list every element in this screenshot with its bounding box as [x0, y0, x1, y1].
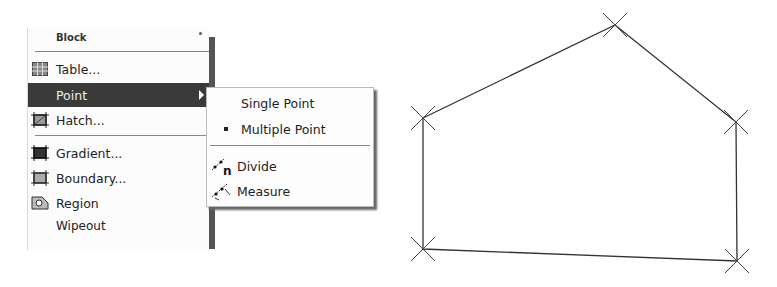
point-markers [411, 13, 749, 273]
drawing-canvas[interactable] [0, 0, 777, 287]
polygon-shape [423, 25, 737, 261]
